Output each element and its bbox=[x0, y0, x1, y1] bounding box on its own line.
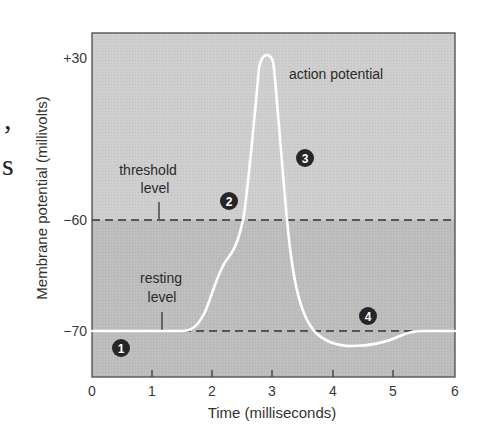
x-tick-5: 5 bbox=[389, 383, 397, 399]
x-tick-3: 3 bbox=[268, 383, 276, 399]
x-tick-4: 4 bbox=[329, 383, 337, 399]
label-resting-line2: level bbox=[148, 289, 177, 305]
x-tick-2: 2 bbox=[208, 383, 216, 399]
label-threshold-line1: threshold bbox=[119, 162, 177, 178]
label-action-potential: action potential bbox=[289, 66, 383, 82]
badge-1-number: 1 bbox=[118, 342, 125, 356]
x-axis-title: Time (milliseconds) bbox=[208, 404, 337, 421]
badge-1: 1 bbox=[112, 339, 130, 357]
action-potential-chart: 0 1 2 3 4 5 6 Time (milliseconds) +30 −6… bbox=[0, 0, 478, 443]
y-tick-plus30: +30 bbox=[63, 50, 87, 66]
badge-2-number: 2 bbox=[226, 195, 233, 209]
label-resting-line1: resting bbox=[140, 270, 182, 286]
badge-4: 4 bbox=[359, 307, 377, 325]
badge-4-number: 4 bbox=[365, 310, 372, 324]
badge-2: 2 bbox=[220, 192, 238, 210]
y-axis-title: Membrane potential (millivolts) bbox=[33, 96, 50, 299]
label-threshold-line2: level bbox=[141, 180, 170, 196]
y-tick-minus60: −60 bbox=[63, 212, 87, 228]
badge-3-number: 3 bbox=[302, 152, 309, 166]
y-tick-minus70: −70 bbox=[63, 323, 87, 339]
x-tick-1: 1 bbox=[148, 383, 156, 399]
badge-3: 3 bbox=[296, 149, 314, 167]
x-tick-6: 6 bbox=[451, 383, 459, 399]
x-tick-0: 0 bbox=[88, 383, 96, 399]
stipple-texture bbox=[92, 33, 455, 377]
